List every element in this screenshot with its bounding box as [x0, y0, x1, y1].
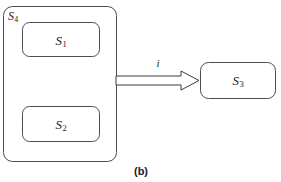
- node-s1-label-subscript: 1: [62, 38, 66, 48]
- node-s1-label: S1: [56, 34, 67, 47]
- node-s3-label-subscript: 3: [239, 78, 243, 88]
- diagram-canvas: [0, 0, 281, 182]
- edge-i-arrow-shape: [116, 71, 199, 90]
- figure-caption: (b): [134, 165, 148, 177]
- outer-system-container-label-subscript: 4: [14, 15, 18, 24]
- node-s3-label: S3: [233, 74, 244, 87]
- figure-panel-b: S4 S1 S2 S3 i (b): [0, 0, 281, 182]
- node-s3-label-text: S: [233, 73, 240, 88]
- node-s1-label-text: S: [56, 33, 63, 48]
- outer-system-container-label: S4: [8, 10, 18, 22]
- node-s2-label-subscript: 2: [62, 122, 66, 132]
- edge-i-label: i: [156, 58, 159, 69]
- node-s2-label: S2: [56, 118, 67, 131]
- node-s2-label-text: S: [56, 117, 63, 132]
